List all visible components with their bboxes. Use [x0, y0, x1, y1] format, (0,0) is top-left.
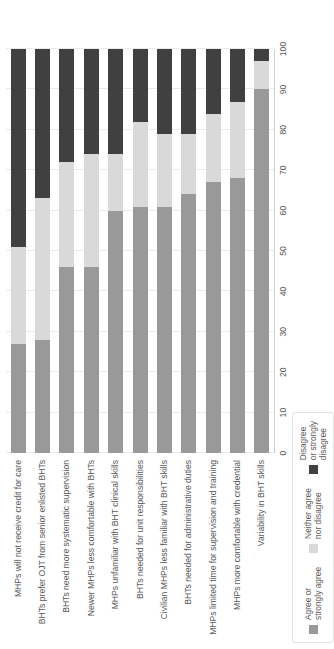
- legend-label: Disagree or strongly disagree: [298, 421, 328, 460]
- bar-segment: [133, 49, 148, 122]
- bar-segment: [108, 49, 123, 154]
- bar-segment: [108, 211, 123, 453]
- bar-segment: [254, 89, 269, 453]
- category-label: BHTs prefer OJT from senior enlisted BHT…: [35, 460, 50, 624]
- category-label: BHTs need more systematic supervision: [59, 460, 74, 613]
- category-label: MHPs will not receive credit for care: [11, 460, 26, 597]
- bar-segment: [181, 194, 196, 453]
- bar-segment: [59, 49, 74, 162]
- x-tick-label: 40: [278, 287, 288, 297]
- bar-segment: [206, 49, 221, 114]
- bar-row: Newer MHPs less comfortable with BHTs: [84, 49, 99, 453]
- category-label: MHPs unfamiliar with BHT clinical skills: [108, 460, 123, 609]
- legend-label: Neither agree nor disagree: [303, 488, 323, 539]
- category-label: Variability in BHT skills: [254, 460, 269, 546]
- bar-segment: [11, 344, 26, 453]
- bar-segment: [181, 134, 196, 195]
- x-tick-label: 20: [278, 367, 288, 377]
- bar-segment: [157, 49, 172, 134]
- bar-segment: [59, 162, 74, 267]
- chart-legend: Agree or strongly agreeNeither agree nor…: [292, 412, 334, 643]
- bar-segment: [157, 134, 172, 207]
- x-axis-line: [274, 49, 275, 453]
- legend-swatch: [309, 465, 318, 474]
- bar-row: BHTs needed for administrative duties: [181, 49, 196, 453]
- x-tick-label: 70: [278, 165, 288, 175]
- x-tick-label: 0: [278, 451, 288, 456]
- legend-swatch: [309, 625, 318, 634]
- bar-segment: [35, 199, 50, 340]
- bar-segment: [206, 182, 221, 453]
- bar-segment: [11, 247, 26, 344]
- category-label: Civilian MHPs less familiar with BHT ski…: [157, 460, 172, 619]
- legend-item: Neither agree nor disagree: [303, 488, 323, 553]
- plot-area: 0102030405060708090100MHPs will not rece…: [6, 49, 274, 453]
- bar-segment: [133, 122, 148, 207]
- bar-segment: [84, 49, 99, 154]
- bar-row: MHPs will not receive credit for care: [11, 49, 26, 453]
- bar-row: Variability in BHT skills: [254, 49, 269, 453]
- bar-segment: [206, 114, 221, 183]
- category-label: Newer MHPs less comfortable with BHTs: [84, 460, 99, 616]
- category-label: MHPs more comfortable with credential: [230, 460, 245, 610]
- legend-item: Agree or strongly agree: [303, 567, 323, 634]
- x-tick-label: 100: [278, 42, 288, 56]
- bar-segment: [254, 61, 269, 89]
- bar-segment: [157, 207, 172, 453]
- bar-segment: [230, 49, 245, 102]
- legend-label: Agree or strongly agree: [303, 567, 323, 620]
- bar-row: BHTs need more systematic supervision: [59, 49, 74, 453]
- bar-segment: [181, 49, 196, 134]
- bar-segment: [133, 207, 148, 453]
- bar-segment: [254, 49, 269, 61]
- legend-swatch: [309, 544, 318, 553]
- legend-item: Disagree or strongly disagree: [298, 421, 328, 474]
- bar-row: BHTs needed for unit responsibilities: [133, 49, 148, 453]
- category-label: BHTs needed for administrative duties: [181, 460, 196, 605]
- x-tick-label: 80: [278, 125, 288, 135]
- bar-segment: [35, 49, 50, 198]
- x-tick-label: 90: [278, 85, 288, 95]
- bar-segment: [84, 154, 99, 267]
- bar-segment: [230, 178, 245, 453]
- bar-segment: [35, 340, 50, 453]
- x-tick-label: 50: [278, 246, 288, 256]
- bar-row: MHPs more comfortable with credential: [230, 49, 245, 453]
- category-label: BHTs needed for unit responsibilities: [133, 460, 148, 599]
- bar-row: BHTs prefer OJT from senior enlisted BHT…: [35, 49, 50, 453]
- x-tick-label: 10: [278, 408, 288, 418]
- bar-row: Civilian MHPs less familiar with BHT ski…: [157, 49, 172, 453]
- bar-segment: [59, 267, 74, 453]
- bar-segment: [230, 102, 245, 179]
- x-tick-label: 30: [278, 327, 288, 337]
- bar-row: MHPs limited time for supervision and tr…: [206, 49, 221, 453]
- bar-segment: [11, 49, 26, 247]
- x-tick-label: 60: [278, 206, 288, 216]
- bar-segment: [108, 154, 123, 211]
- bar-row: MHPs unfamiliar with BHT clinical skills: [108, 49, 123, 453]
- category-label: MHPs limited time for supervision and tr…: [206, 460, 221, 635]
- bar-segment: [84, 267, 99, 453]
